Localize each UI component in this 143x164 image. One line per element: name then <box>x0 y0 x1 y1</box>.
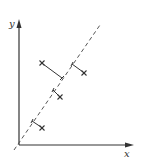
data-point-icon <box>82 71 87 76</box>
y-axis-arrow-icon <box>17 19 22 28</box>
y-axis-label: y <box>8 18 15 29</box>
fitted-line <box>14 25 100 150</box>
x-axis-arrow-icon <box>125 143 134 148</box>
data-point-icon <box>40 126 45 131</box>
data-point-icon <box>58 95 63 100</box>
data-points <box>40 61 87 131</box>
projection-segment <box>43 64 62 78</box>
projection-diagram: y x <box>0 0 143 164</box>
x-axis-label: x <box>124 148 130 159</box>
data-point-icon <box>40 61 45 66</box>
projection-segments <box>32 64 83 127</box>
